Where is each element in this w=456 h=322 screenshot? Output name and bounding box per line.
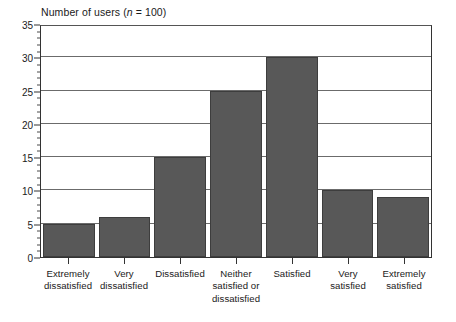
x-tick-label: Dissatisfied xyxy=(155,268,205,322)
x-tick-4 xyxy=(292,258,293,264)
x-axis-slot: Satisfied xyxy=(264,258,320,322)
x-axis-slot: Very satisfied xyxy=(320,258,376,322)
x-axis-slot: Dissatisfied xyxy=(152,258,208,322)
bar[interactable] xyxy=(154,157,206,257)
chart-title: Number of users (n = 100) xyxy=(41,6,166,18)
bar[interactable] xyxy=(322,190,374,257)
y-tick-label-0: 0 xyxy=(27,253,33,264)
x-tick-label: Very satisfied xyxy=(330,268,366,322)
bar[interactable] xyxy=(99,217,151,257)
x-axis-slot: Very dissatisfied xyxy=(96,258,152,322)
y-tick-label-20: 20 xyxy=(22,119,33,130)
y-tick-label-15: 15 xyxy=(22,153,33,164)
x-axis-slot: Extremely dissatisfied xyxy=(40,258,96,322)
bar[interactable] xyxy=(266,57,318,257)
plot-area xyxy=(40,25,432,258)
x-tick-5 xyxy=(348,258,349,264)
y-tick-label-25: 25 xyxy=(22,86,33,97)
x-tick-label: Neither satisfied or dissatisfied xyxy=(212,268,260,322)
y-tick-label-5: 5 xyxy=(27,219,33,230)
x-axis-slot: Neither satisfied or dissatisfied xyxy=(208,258,264,322)
x-axis-slot: Extremely satisfied xyxy=(376,258,432,322)
bar-slot xyxy=(41,26,97,257)
x-tick-6 xyxy=(404,258,405,264)
x-tick-1 xyxy=(124,258,125,264)
bar[interactable] xyxy=(377,197,429,257)
y-axis: 05101520253035 xyxy=(0,25,40,258)
bar[interactable] xyxy=(210,91,262,257)
bar-slot xyxy=(375,26,431,257)
bar-slot xyxy=(152,26,208,257)
chart-title-suffix: = 100) xyxy=(133,6,167,18)
x-tick-2 xyxy=(180,258,181,264)
x-tick-3 xyxy=(236,258,237,264)
x-tick-0 xyxy=(68,258,69,264)
x-tick-label: Satisfied xyxy=(273,268,310,322)
bar-slot xyxy=(264,26,320,257)
x-axis: Extremely dissatisfiedVery dissatisfiedD… xyxy=(40,258,432,322)
bar[interactable] xyxy=(43,224,95,257)
x-tick-label: Extremely satisfied xyxy=(382,268,425,322)
y-tick-label-30: 30 xyxy=(22,53,33,64)
y-tick-label-10: 10 xyxy=(22,186,33,197)
bar-slot xyxy=(320,26,376,257)
bar-slot xyxy=(97,26,153,257)
chart-title-prefix: Number of users ( xyxy=(41,6,127,18)
bar-chart: Number of users (n = 100) 05101520253035… xyxy=(0,0,456,322)
x-tick-label: Very dissatisfied xyxy=(100,268,148,322)
x-tick-label: Extremely dissatisfied xyxy=(44,268,92,322)
y-tick-label-35: 35 xyxy=(22,20,33,31)
bar-series xyxy=(41,26,431,257)
bar-slot xyxy=(208,26,264,257)
